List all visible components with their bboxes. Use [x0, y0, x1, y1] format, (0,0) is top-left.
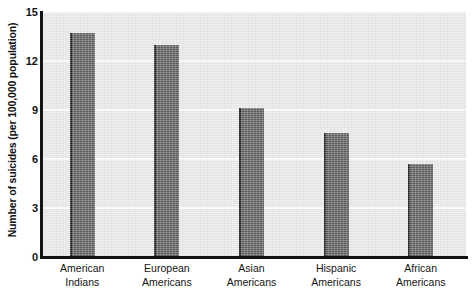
y-axis-tick-label: 3: [4, 203, 38, 214]
x-axis-label-line-2: Americans: [378, 275, 463, 289]
x-axis-category-label: AfricanAmericans: [378, 261, 463, 289]
x-axis-category-label: AmericanIndians: [40, 261, 125, 289]
x-axis-category-labels: AmericanIndiansEuropeanAmericansAsianAme…: [43, 261, 466, 292]
bar: [70, 33, 95, 257]
y-axis-tick-label: 12: [4, 56, 38, 67]
y-axis-tick-label: 9: [4, 105, 38, 116]
y-axis-tick-labels: 03691215: [0, 0, 38, 292]
bar: [239, 108, 264, 257]
x-axis-label-line-1: African: [378, 261, 463, 275]
x-axis-label-line-1: European: [125, 261, 210, 275]
x-axis-label-line-1: American: [40, 261, 125, 275]
bar: [324, 133, 349, 257]
x-axis-label-line-1: Asian: [209, 261, 294, 275]
bar: [154, 45, 179, 257]
x-axis-category-label: AsianAmericans: [209, 261, 294, 289]
x-axis-label-line-2: Indians: [40, 275, 125, 289]
x-axis-category-label: HispanicAmericans: [294, 261, 379, 289]
x-axis-label-line-2: Americans: [125, 275, 210, 289]
bar-chart-figure: Number of suicides (per 100,000 populati…: [0, 0, 476, 292]
x-axis-category-label: EuropeanAmericans: [125, 261, 210, 289]
y-axis-tick-label: 0: [4, 252, 38, 263]
x-axis-line: [40, 256, 468, 259]
gridline: [43, 60, 466, 62]
y-axis-line: [40, 11, 43, 259]
bar: [408, 164, 433, 257]
x-axis-label-line-2: Americans: [294, 275, 379, 289]
y-axis-tick-label: 15: [4, 7, 38, 18]
y-axis-tick-label: 6: [4, 154, 38, 165]
gridline: [43, 11, 466, 13]
x-axis-label-line-1: Hispanic: [294, 261, 379, 275]
x-axis-label-line-2: Americans: [209, 275, 294, 289]
plot-area: [43, 12, 466, 257]
